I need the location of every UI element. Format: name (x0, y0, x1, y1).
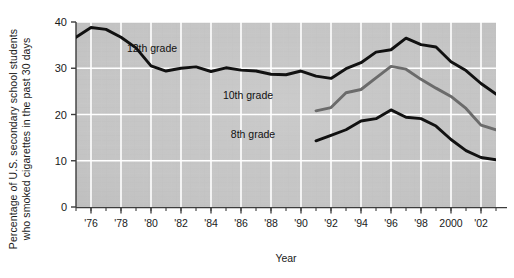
series-annotation-10th-grade: 10th grade (223, 89, 273, 101)
x-tick-label: '78 (114, 217, 128, 229)
x-tick-label: '76 (84, 217, 98, 229)
cigarette-smoking-line-chart: Percentage of U.S. secondary school stud… (0, 0, 514, 278)
x-tick-label: '86 (234, 217, 248, 229)
x-tick-label: '02 (474, 217, 488, 229)
x-tick-label: '84 (204, 217, 218, 229)
series-annotation-8th-grade: 8th grade (231, 128, 276, 140)
y-axis-ticks: 010203040 (55, 16, 76, 213)
x-tick-label: '94 (354, 217, 368, 229)
y-tick-label: 30 (55, 62, 67, 74)
x-tick-label: '80 (144, 217, 158, 229)
x-tick-label: '82 (174, 217, 188, 229)
plot-canvas: 010203040 '76'78'80'82'84'86'88'90'92'94… (0, 0, 514, 278)
y-tick-label: 20 (55, 109, 67, 121)
x-axis-ticks: '76'78'80'82'84'86'88'90'92'94'96'982000… (76, 207, 496, 229)
y-tick-label: 40 (55, 16, 67, 28)
y-tick-label: 0 (61, 201, 67, 213)
x-tick-label: '92 (324, 217, 338, 229)
series-annotation-12th-grade: 12th grade (127, 42, 177, 54)
x-tick-label: '88 (264, 217, 278, 229)
x-tick-label: 2000 (439, 217, 463, 229)
x-tick-label: '96 (384, 217, 398, 229)
y-tick-label: 10 (55, 155, 67, 167)
x-tick-label: '90 (294, 217, 308, 229)
x-tick-label: '98 (414, 217, 428, 229)
x-axis-title: Year (76, 252, 496, 264)
